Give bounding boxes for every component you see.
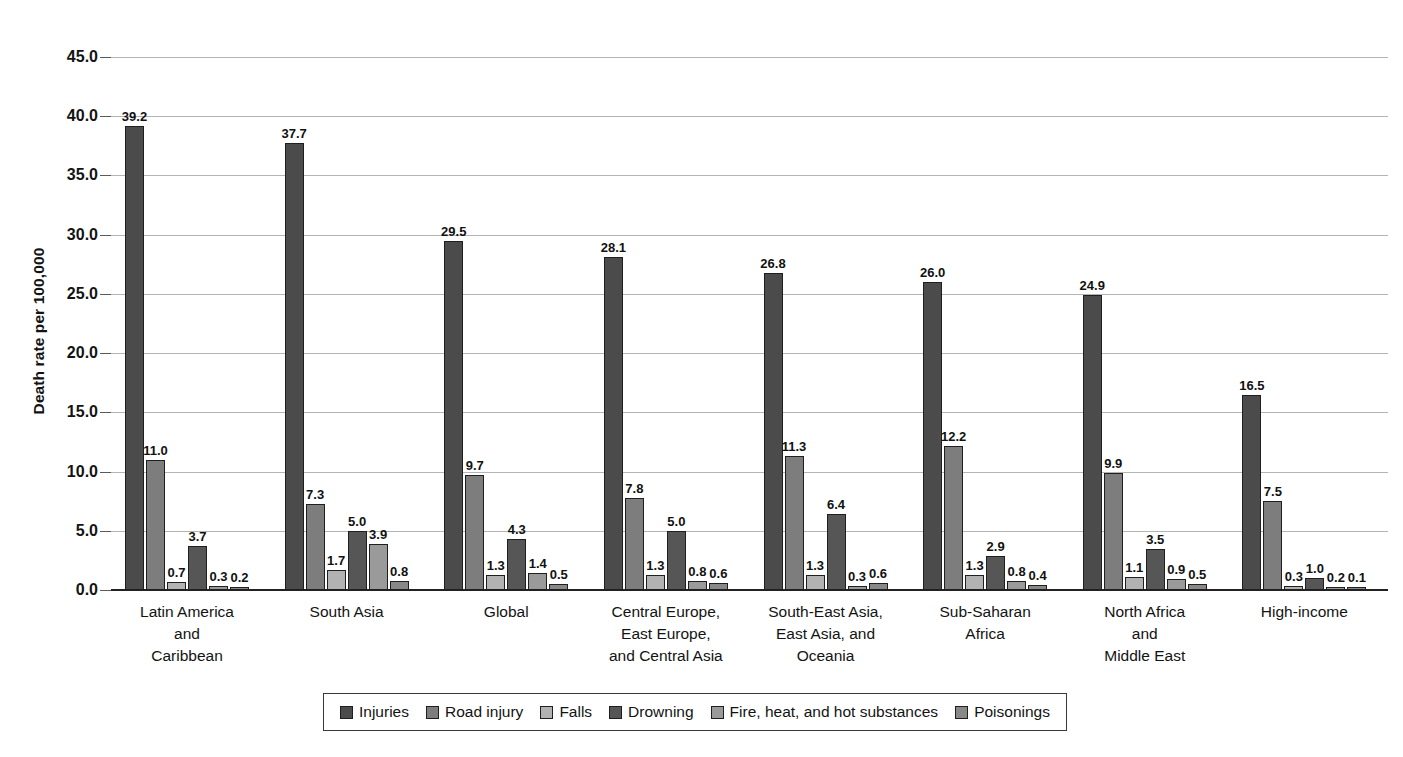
legend-item[interactable]: Fire, heat, and hot substances	[711, 703, 939, 721]
bar[interactable]	[167, 582, 186, 590]
bar-slot: 0.2	[1326, 57, 1345, 590]
y-tick-label: 20.0	[0, 344, 98, 362]
bar[interactable]	[923, 282, 942, 590]
bar-value-label: 1.3	[966, 559, 984, 572]
bar-group-bars: 24.99.91.13.50.90.5	[1083, 57, 1207, 590]
bar-value-label: 0.2	[1327, 571, 1345, 584]
bar[interactable]	[709, 583, 728, 590]
bar-value-label: 7.3	[306, 488, 324, 501]
bar[interactable]	[146, 460, 165, 590]
bar[interactable]	[667, 531, 686, 590]
bar-value-label: 26.0	[920, 266, 945, 279]
bar-value-label: 1.4	[529, 557, 547, 570]
bar-slot: 0.1	[1347, 57, 1366, 590]
bar[interactable]	[1083, 295, 1102, 590]
bar-value-label: 7.8	[625, 482, 643, 495]
y-tick-mark	[100, 116, 111, 117]
bar[interactable]	[528, 573, 547, 590]
bar-chart: Death rate per 100,000 0.05.010.015.020.…	[0, 0, 1403, 757]
bar[interactable]	[1263, 501, 1282, 590]
bar[interactable]	[764, 273, 783, 590]
bar[interactable]	[486, 575, 505, 590]
bar-slot: 0.9	[1167, 57, 1186, 590]
y-tick-mark	[100, 472, 111, 473]
legend-swatch-icon	[340, 706, 353, 719]
bar-value-label: 0.7	[167, 566, 185, 579]
bar[interactable]	[1028, 585, 1047, 590]
bar-slot: 3.7	[188, 57, 207, 590]
y-tick-mark	[100, 590, 111, 591]
bar[interactable]	[306, 504, 325, 590]
bar[interactable]	[688, 581, 707, 590]
bar-value-label: 3.5	[1146, 533, 1164, 546]
bar[interactable]	[507, 539, 526, 590]
y-tick-label: 30.0	[0, 226, 98, 244]
bar[interactable]	[1167, 579, 1186, 590]
y-tick-label: 45.0	[0, 48, 98, 66]
bar[interactable]	[465, 475, 484, 590]
bar-slot: 1.4	[528, 57, 547, 590]
bar-slot: 39.2	[125, 57, 144, 590]
bar[interactable]	[848, 586, 867, 590]
bar[interactable]	[1347, 587, 1366, 590]
bar-slot: 0.5	[549, 57, 568, 590]
bar[interactable]	[1146, 549, 1165, 590]
bar[interactable]	[986, 556, 1005, 590]
y-tick-label: 40.0	[0, 107, 98, 125]
bar[interactable]	[1007, 581, 1026, 590]
bar-group: 26.012.21.32.90.80.4	[923, 57, 1047, 590]
bar[interactable]	[390, 581, 409, 590]
bar[interactable]	[444, 241, 463, 590]
bar[interactable]	[549, 584, 568, 590]
bar[interactable]	[785, 456, 804, 590]
legend-item[interactable]: Drowning	[609, 703, 693, 721]
bar-value-label: 12.2	[941, 430, 966, 443]
bar[interactable]	[285, 143, 304, 590]
bar-group: 24.99.91.13.50.90.5	[1083, 57, 1207, 590]
legend-label: Injuries	[359, 703, 409, 721]
bar[interactable]	[1326, 587, 1345, 590]
legend-swatch-icon	[609, 706, 622, 719]
y-tick-mark	[100, 294, 111, 295]
bar[interactable]	[188, 546, 207, 590]
bar-slot: 1.0	[1305, 57, 1324, 590]
bar-value-label: 1.3	[487, 559, 505, 572]
bar[interactable]	[1125, 577, 1144, 590]
bar-value-label: 0.8	[688, 565, 706, 578]
y-tick-mark	[100, 353, 111, 354]
bar-group-bars: 37.77.31.75.03.90.8	[285, 57, 409, 590]
bar-group-bars: 29.59.71.34.31.40.5	[444, 57, 568, 590]
bar[interactable]	[348, 531, 367, 590]
bar-value-label: 0.6	[709, 567, 727, 580]
bar[interactable]	[230, 587, 249, 590]
bar[interactable]	[806, 575, 825, 590]
bar[interactable]	[209, 586, 228, 590]
bar-group: 16.57.50.31.00.20.1	[1242, 57, 1366, 590]
bar[interactable]	[965, 575, 984, 590]
bar[interactable]	[604, 257, 623, 590]
legend-item[interactable]: Injuries	[340, 703, 409, 721]
legend-item[interactable]: Poisonings	[955, 703, 1050, 721]
bar-value-label: 29.5	[441, 225, 466, 238]
bar[interactable]	[944, 446, 963, 591]
bar-value-label: 2.9	[987, 540, 1005, 553]
bar[interactable]	[1188, 584, 1207, 590]
bar-slot: 5.0	[667, 57, 686, 590]
bar[interactable]	[1284, 586, 1303, 590]
bar-slot: 1.1	[1125, 57, 1144, 590]
legend-item[interactable]: Road injury	[426, 703, 523, 721]
bar-slot: 1.7	[327, 57, 346, 590]
bar[interactable]	[1305, 578, 1324, 590]
bar[interactable]	[1104, 473, 1123, 590]
bar[interactable]	[869, 583, 888, 590]
bar-slot: 28.1	[604, 57, 623, 590]
bar[interactable]	[827, 514, 846, 590]
bar[interactable]	[625, 498, 644, 590]
bar[interactable]	[369, 544, 388, 590]
bar[interactable]	[646, 575, 665, 590]
bar-slot: 26.8	[764, 57, 783, 590]
bar[interactable]	[327, 570, 346, 590]
legend-item[interactable]: Falls	[540, 703, 592, 721]
bar[interactable]	[1242, 395, 1261, 590]
bar[interactable]	[125, 126, 144, 590]
